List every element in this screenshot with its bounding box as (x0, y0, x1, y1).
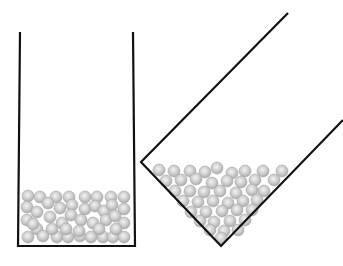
sphere (214, 185, 226, 197)
sphere (211, 162, 223, 174)
sphere (79, 191, 91, 203)
sphere (75, 214, 87, 226)
sphere (73, 225, 85, 237)
sphere (268, 174, 280, 186)
sphere (22, 231, 34, 243)
sphere (216, 205, 228, 217)
sphere (192, 196, 204, 208)
sphere (22, 190, 34, 202)
sphere (235, 176, 247, 188)
sphere (207, 195, 219, 207)
sphere (184, 185, 196, 197)
sphere (169, 185, 181, 197)
sphere (44, 211, 56, 223)
sphere (231, 204, 243, 216)
sphere (239, 165, 251, 177)
sphere (27, 218, 39, 230)
sphere (153, 164, 165, 176)
sphere (175, 174, 187, 186)
spheres-upright-container (21, 190, 130, 243)
sphere (185, 206, 197, 218)
sphere (31, 206, 43, 218)
sphere (46, 223, 58, 235)
sphere (190, 173, 202, 185)
sphere (60, 223, 72, 235)
sphere (118, 191, 130, 203)
sphere (221, 175, 233, 187)
spheres-tilted-container (153, 162, 288, 244)
sphere (110, 223, 122, 235)
sphere (106, 199, 118, 211)
sphere (42, 197, 54, 209)
sphere (54, 202, 66, 214)
sphere (93, 223, 105, 235)
diagram-canvas (0, 0, 343, 266)
